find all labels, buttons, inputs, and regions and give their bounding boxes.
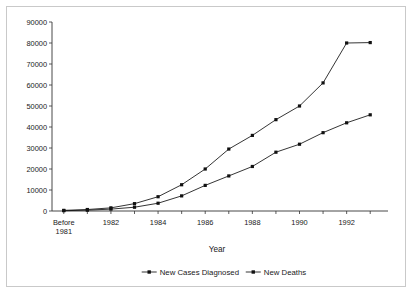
legend-label: New Cases Diagnosed bbox=[160, 268, 239, 277]
x-tick-label: 1992 bbox=[338, 218, 354, 227]
line-chart-plot: 0100002000030000400005000060000700008000… bbox=[0, 0, 413, 298]
y-tick-label: 70000 bbox=[26, 60, 47, 69]
y-tick-label: 60000 bbox=[26, 81, 47, 90]
x-tick-label: 1984 bbox=[150, 218, 166, 227]
data-point-marker bbox=[133, 206, 136, 209]
y-tick-label: 50000 bbox=[26, 102, 47, 111]
x-tick-label: 1986 bbox=[197, 218, 213, 227]
y-tick-label: 40000 bbox=[26, 123, 47, 132]
series-line-2 bbox=[64, 115, 370, 211]
data-point-marker bbox=[109, 208, 112, 211]
data-point-marker bbox=[227, 174, 230, 177]
data-point-marker bbox=[274, 118, 277, 121]
x-tick-label: Before bbox=[53, 218, 75, 227]
data-point-marker bbox=[345, 121, 348, 124]
x-axis-title: Year bbox=[209, 245, 226, 254]
data-point-marker bbox=[204, 167, 207, 170]
data-point-marker bbox=[156, 202, 159, 205]
y-tick-label: 0 bbox=[43, 207, 47, 216]
data-point-marker bbox=[133, 202, 136, 205]
data-point-marker bbox=[227, 147, 230, 150]
x-tick-label: 1988 bbox=[244, 218, 260, 227]
y-tick-label: 10000 bbox=[26, 186, 47, 195]
x-tick-label: 1990 bbox=[291, 218, 307, 227]
x-tick-label: 1982 bbox=[103, 218, 119, 227]
data-point-marker bbox=[180, 194, 183, 197]
data-point-marker bbox=[274, 151, 277, 154]
data-point-marker bbox=[86, 209, 89, 212]
y-tick-label: 80000 bbox=[26, 39, 47, 48]
data-point-marker bbox=[321, 81, 324, 84]
chart-figure: 0100002000030000400005000060000700008000… bbox=[0, 0, 413, 298]
data-point-marker bbox=[369, 41, 372, 44]
data-point-marker bbox=[345, 41, 348, 44]
y-tick-label: 30000 bbox=[26, 144, 47, 153]
data-point-marker bbox=[156, 195, 159, 198]
legend-label: New Deaths bbox=[264, 268, 307, 277]
legend-marker-square bbox=[147, 270, 150, 273]
data-point-marker bbox=[369, 113, 372, 116]
data-point-marker bbox=[62, 209, 65, 212]
series-line-1 bbox=[64, 43, 370, 211]
data-point-marker bbox=[298, 104, 301, 107]
data-point-marker bbox=[321, 131, 324, 134]
y-tick-label: 20000 bbox=[26, 165, 47, 174]
legend-marker-square bbox=[252, 270, 255, 273]
data-point-marker bbox=[204, 184, 207, 187]
data-point-marker bbox=[298, 143, 301, 146]
data-point-marker bbox=[251, 165, 254, 168]
x-tick-label-line2: 1981 bbox=[56, 227, 72, 236]
data-point-marker bbox=[180, 183, 183, 186]
data-point-marker bbox=[251, 134, 254, 137]
y-tick-label: 90000 bbox=[26, 18, 47, 27]
